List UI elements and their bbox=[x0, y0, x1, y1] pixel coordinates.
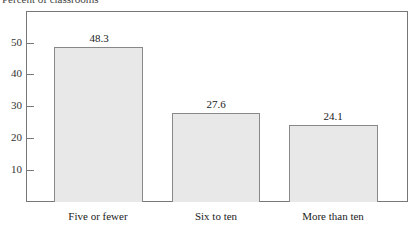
x-category-label: Five or fewer bbox=[38, 210, 158, 222]
y-tick-label: 40 bbox=[4, 67, 22, 79]
y-tick bbox=[26, 138, 34, 139]
bar-six-to-ten bbox=[172, 113, 260, 202]
y-axis-title: Percent of classrooms bbox=[2, 0, 99, 5]
y-tick-label: 20 bbox=[4, 131, 22, 143]
y-tick bbox=[26, 43, 34, 44]
y-tick-label: 30 bbox=[4, 99, 22, 111]
y-tick bbox=[26, 106, 34, 107]
bar-five-or-fewer bbox=[54, 47, 143, 202]
bar-more-than-ten bbox=[289, 125, 378, 202]
y-tick bbox=[26, 170, 34, 171]
x-category-label: More than ten bbox=[273, 210, 393, 222]
x-category-label: Six to ten bbox=[156, 210, 276, 222]
y-tick-label: 10 bbox=[4, 163, 22, 175]
value-label: 48.3 bbox=[54, 32, 144, 44]
value-label: 24.1 bbox=[288, 110, 378, 122]
value-label: 27.6 bbox=[171, 98, 261, 110]
y-tick bbox=[26, 74, 34, 75]
y-tick-label: 50 bbox=[4, 36, 22, 48]
